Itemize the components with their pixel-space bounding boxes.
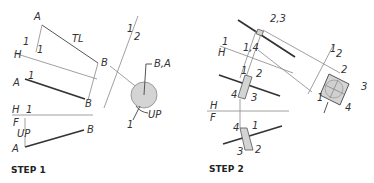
svg-text:B,A: B,A [154, 58, 171, 69]
step1-title: STEP 1 [11, 165, 46, 175]
svg-text:H: H [210, 100, 218, 111]
svg-text:1: 1 [28, 70, 34, 81]
svg-text:F: F [210, 112, 216, 123]
svg-text:2: 2 [336, 48, 342, 59]
diagram-canvas: A TL 1 1 H B 1 A B H 1 F UP A B 1 2 B,A … [0, 0, 374, 183]
true-length-line [42, 25, 98, 63]
svg-text:1: 1 [23, 36, 29, 47]
svg-text:4: 4 [345, 102, 351, 113]
svg-text:1: 1 [222, 36, 228, 47]
svg-text:2: 2 [341, 64, 347, 75]
top-view-rect [238, 75, 252, 99]
step2-drawing: 2,3 1 H 1,4 1 2 4 3 H F 4 1 3 2 1 2 2 3 … [207, 13, 367, 174]
svg-text:1: 1 [127, 23, 133, 34]
step1-drawing: A TL 1 1 H B 1 A B H 1 F UP A B 1 2 B,A … [11, 11, 171, 175]
fold-line-h1 [14, 53, 97, 79]
svg-text:1: 1 [127, 119, 133, 130]
svg-text:3: 3 [251, 92, 257, 103]
svg-text:H: H [12, 104, 20, 115]
svg-text:1: 1 [317, 92, 323, 103]
svg-text:A: A [12, 77, 20, 88]
label-a: A [33, 11, 41, 22]
top-view-line [25, 79, 85, 99]
svg-text:2: 2 [255, 144, 261, 155]
projector-b [88, 63, 98, 100]
step2-title: STEP 2 [209, 164, 244, 174]
label-tl: TL [72, 33, 84, 44]
svg-text:B: B [101, 57, 108, 68]
svg-text:1: 1 [241, 65, 247, 76]
svg-text:H: H [218, 47, 226, 58]
svg-text:4: 4 [233, 122, 239, 133]
svg-text:1: 1 [37, 44, 43, 55]
svg-text:H: H [14, 49, 22, 60]
front-view-line [25, 130, 84, 147]
svg-text:A: A [11, 143, 19, 154]
svg-text:B: B [85, 98, 92, 109]
svg-text:B: B [87, 124, 94, 135]
svg-text:2,3: 2,3 [270, 13, 286, 24]
svg-text:1: 1 [252, 120, 258, 131]
svg-text:3: 3 [361, 81, 367, 92]
svg-text:F: F [13, 117, 19, 128]
svg-text:1: 1 [26, 104, 32, 115]
svg-text:2: 2 [134, 31, 140, 42]
svg-text:2: 2 [256, 68, 262, 79]
svg-text:4: 4 [231, 89, 237, 100]
svg-text:1,4: 1,4 [243, 42, 259, 53]
svg-text:3: 3 [237, 146, 243, 157]
svg-text:UP: UP [148, 109, 162, 120]
svg-text:UP: UP [17, 128, 31, 139]
